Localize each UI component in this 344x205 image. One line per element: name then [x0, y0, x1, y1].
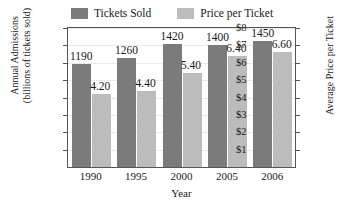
y-axis-left-tick: [63, 63, 68, 64]
y-axis-left-tick: [63, 80, 68, 81]
y-axis-left-title: Annual Admissions (billions of tickets s…: [9, 0, 32, 132]
chart-legend: Tickets Sold Price per Ticket: [0, 8, 344, 19]
x-axis-tick-label: 2006: [244, 171, 300, 182]
bar-value-price-per-ticket: 4.40: [123, 78, 169, 89]
y-axis-right-tick: [295, 115, 300, 116]
y-axis-right-tick-label: $3: [236, 110, 266, 120]
bar-value-tickets-sold: 1260: [104, 45, 150, 56]
bar-group: [163, 28, 201, 167]
y-axis-left-title-line2: (billions of tickets sold): [20, 0, 32, 132]
y-axis-left-tick: [63, 28, 68, 29]
y-axis-right-tick-label: $5: [236, 75, 266, 85]
bar-value-price-per-ticket: 5.40: [168, 60, 214, 71]
legend-label-price-per-ticket: Price per Ticket: [200, 8, 273, 19]
y-axis-right-tick: [295, 98, 300, 99]
legend-item-price-per-ticket: Price per Ticket: [177, 8, 273, 19]
y-axis-left-tick: [63, 150, 68, 151]
x-axis-title: Year: [67, 187, 296, 199]
bar-price-per-ticket: [92, 94, 111, 167]
legend-item-tickets-sold: Tickets Sold: [71, 8, 151, 19]
bar-value-price-per-ticket: 6.60: [259, 39, 305, 50]
bar-tickets-sold: [72, 64, 91, 167]
legend-swatch-tickets-sold: [71, 8, 88, 19]
bar-value-price-per-ticket: 4.20: [77, 81, 123, 92]
y-axis-left-tick: [63, 132, 68, 133]
y-axis-right-tick-label: $6: [236, 58, 266, 68]
y-axis-left-title-line1: Annual Admissions: [9, 0, 21, 132]
y-axis-right-title: Average Price per Ticket: [324, 0, 335, 136]
legend-swatch-price-per-ticket: [177, 8, 194, 19]
y-axis-right-tick: [295, 132, 300, 133]
y-axis-right-tick: [295, 150, 300, 151]
y-axis-right-tick: [295, 28, 300, 29]
y-axis-left-tick: [63, 45, 68, 46]
y-axis-right-tick: [295, 63, 300, 64]
legend-label-tickets-sold: Tickets Sold: [94, 8, 151, 19]
bar-value-price-per-ticket: 6.40: [213, 43, 259, 54]
bar-value-tickets-sold: 1190: [58, 51, 104, 62]
y-axis-left-tick: [63, 98, 68, 99]
bar-tickets-sold: [117, 58, 136, 167]
bar-price-per-ticket: [183, 73, 202, 167]
y-axis-right-tick-label: $4: [236, 93, 266, 103]
bar-price-per-ticket: [273, 52, 292, 167]
bar-price-per-ticket: [137, 91, 156, 167]
bar-chart: Tickets Sold Price per Ticket Annual Adm…: [0, 0, 344, 205]
y-axis-right-tick-label: $2: [236, 127, 266, 137]
y-axis-right-tick: [295, 80, 300, 81]
y-axis-right-tick-label: $1: [236, 145, 266, 155]
bar-value-tickets-sold: 1420: [149, 31, 195, 42]
y-axis-left-tick: [63, 115, 68, 116]
